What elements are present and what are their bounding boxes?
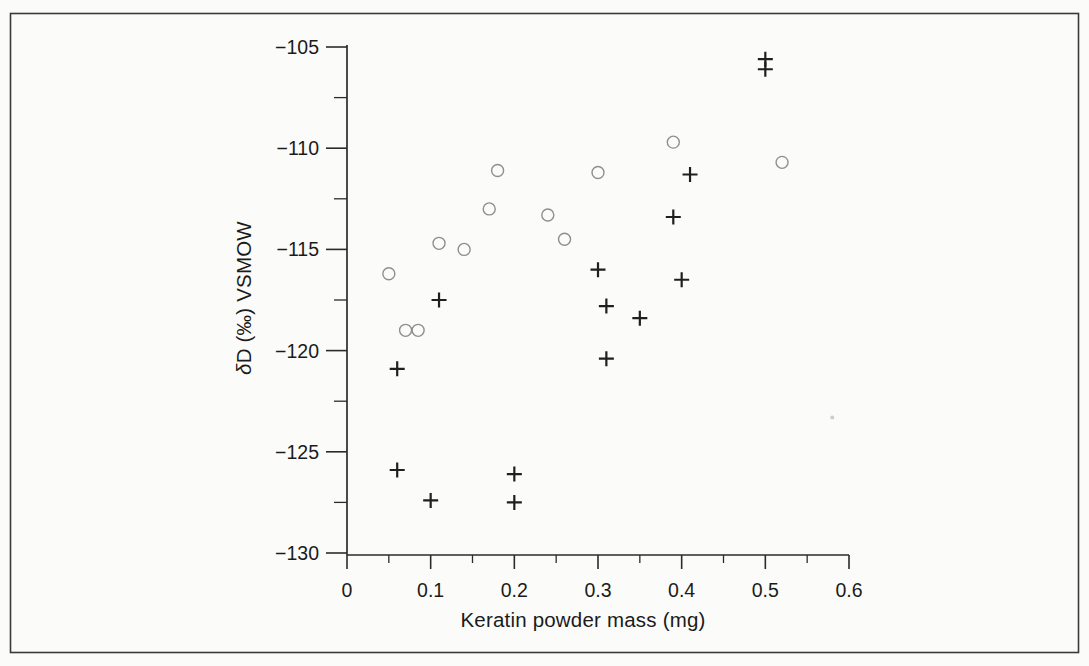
data-point-circle	[559, 233, 571, 245]
data-point-circle	[383, 268, 395, 280]
data-point-plus	[390, 361, 405, 376]
data-point-plus	[666, 210, 681, 225]
data-point-circle	[492, 164, 504, 176]
data-point-circle	[483, 203, 495, 215]
y-axis-title-rest: D (‰) VSMOW	[232, 221, 255, 363]
x-tick-label: 0.3	[584, 579, 611, 601]
x-axis-title: Keratin powder mass (mg)	[383, 608, 783, 632]
data-point-circle	[433, 237, 445, 249]
data-point-circle	[412, 324, 424, 336]
data-point-plus	[758, 62, 773, 77]
data-point-circle	[667, 136, 679, 148]
data-point-plus	[599, 351, 614, 366]
y-axis-title-delta: δ	[232, 363, 255, 375]
y-tick-label: −120	[275, 340, 319, 362]
y-tick-label: −110	[277, 137, 320, 159]
x-tick-label: 0.5	[752, 579, 779, 601]
data-point-plus	[599, 299, 614, 314]
data-point-circle	[592, 166, 604, 178]
x-tick-label: 0	[342, 579, 353, 601]
data-point-circle	[776, 156, 788, 168]
data-point-circle	[400, 324, 412, 336]
x-tick-label: 0.2	[501, 579, 528, 601]
x-tick-label: 0.6	[835, 579, 862, 601]
x-tick-label: 0.1	[417, 579, 444, 601]
y-tick-label: −130	[275, 542, 319, 564]
data-point-plus	[683, 167, 698, 182]
data-point-plus	[390, 463, 405, 478]
x-tick-label: 0.4	[668, 579, 695, 601]
data-point-plus	[432, 293, 447, 308]
data-point-plus	[632, 311, 647, 326]
y-tick-label: −125	[275, 441, 319, 463]
scan-artifact-dot	[830, 415, 834, 419]
data-point-plus	[674, 272, 689, 287]
data-point-plus	[507, 495, 522, 510]
y-tick-label: −115	[277, 238, 320, 260]
data-point-plus	[591, 262, 606, 277]
data-point-circle	[542, 209, 554, 221]
y-axis-title: δD (‰) VSMOW	[232, 148, 260, 448]
data-point-plus	[507, 467, 522, 482]
scanned-figure-page: −105−110−115−120−125−13000.10.20.30.40.5…	[0, 0, 1089, 666]
data-point-circle	[458, 243, 470, 255]
data-point-plus	[423, 493, 438, 508]
scatter-chart: −105−110−115−120−125−13000.10.20.30.40.5…	[0, 0, 1089, 666]
y-tick-label: −105	[275, 36, 319, 58]
figure-border	[11, 14, 1079, 653]
